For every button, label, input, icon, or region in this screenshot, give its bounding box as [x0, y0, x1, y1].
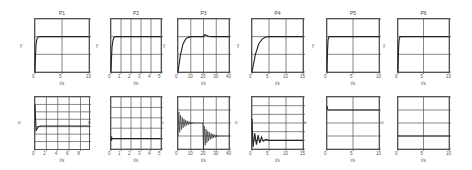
x-tick-label: 2: [43, 152, 46, 157]
y-axis-label: u: [304, 120, 307, 125]
plot-svg: [111, 19, 163, 74]
chart-title: P6: [397, 10, 450, 16]
x-tick-label: 6: [66, 152, 69, 157]
x-tick-label: 0: [249, 75, 252, 80]
x-axis-label: t/s: [251, 158, 304, 163]
x-axis-label: t/s: [34, 158, 90, 163]
x-tick-label: 10: [446, 75, 451, 80]
x-axis-label: t/s: [34, 81, 90, 86]
plot-area: [34, 18, 90, 73]
x-tick-label: 30: [213, 152, 218, 157]
y-axis-label: y: [312, 43, 314, 48]
plot-svg: [252, 97, 305, 151]
x-tick-label: 5: [158, 152, 161, 157]
plot-area: [177, 96, 230, 150]
plot-area: [110, 18, 162, 73]
x-tick-label: 0: [175, 75, 178, 80]
x-axis-label: t/s: [326, 81, 380, 86]
x-tick-label: 1: [118, 75, 121, 80]
y-axis-label: u: [18, 120, 21, 125]
x-tick-label: 0: [108, 152, 111, 157]
x-tick-label: 40: [226, 75, 231, 80]
plot-area: [34, 96, 90, 150]
x-tick-label: 10: [188, 152, 193, 157]
x-axis-label: t/s: [326, 158, 380, 163]
x-tick-label: 0: [175, 152, 178, 157]
chart-title: P1: [34, 10, 90, 16]
x-tick-label: 0: [108, 75, 111, 80]
y-axis-label: y: [163, 43, 165, 48]
x-tick-label: 15: [300, 152, 305, 157]
series-line: [111, 136, 161, 141]
plot-svg: [327, 97, 381, 151]
plot-svg: [111, 97, 163, 151]
x-tick-label: 20: [201, 75, 206, 80]
x-tick-label: 10: [188, 75, 193, 80]
plot-svg: [252, 19, 305, 74]
x-axis-label: t/s: [110, 158, 162, 163]
x-tick-label: 8: [77, 152, 80, 157]
plot-svg: [398, 97, 451, 151]
plot-svg: [398, 19, 451, 74]
x-tick-label: 10: [446, 152, 451, 157]
x-tick-label: 0: [32, 75, 35, 80]
x-axis-label: t/s: [397, 158, 450, 163]
x-tick-label: 10: [376, 75, 381, 80]
x-tick-label: 0: [249, 152, 252, 157]
x-tick-label: 20: [201, 152, 206, 157]
plot-svg: [178, 19, 231, 74]
plot-area: [326, 18, 380, 73]
x-axis-label: t/s: [397, 81, 450, 86]
x-tick-label: 15: [300, 75, 305, 80]
x-axis-label: t/s: [177, 81, 230, 86]
x-tick-label: 4: [55, 152, 58, 157]
chart-title: P2: [110, 10, 162, 16]
plot-svg: [35, 19, 91, 74]
x-tick-label: 0: [324, 75, 327, 80]
x-tick-label: 30: [213, 75, 218, 80]
x-tick-label: 5: [158, 75, 161, 80]
x-tick-label: 4: [148, 75, 151, 80]
x-tick-label: 3: [138, 75, 141, 80]
plot-area: [177, 18, 230, 73]
plot-area: [397, 18, 450, 73]
x-tick-label: 0: [395, 75, 398, 80]
y-axis-label: u: [88, 120, 91, 125]
x-axis-label: t/s: [110, 81, 162, 86]
x-tick-label: 5: [421, 75, 424, 80]
y-axis-label: u: [161, 120, 164, 125]
y-axis-label: u: [235, 120, 238, 125]
x-tick-label: 5: [266, 152, 269, 157]
plot-svg: [35, 97, 91, 151]
chart-title: P3: [177, 10, 230, 16]
y-axis-label: u: [381, 120, 384, 125]
plot-area: [251, 18, 304, 73]
chart-title: P4: [251, 10, 304, 16]
plot-area: [110, 96, 162, 150]
x-tick-label: 10: [283, 152, 288, 157]
x-tick-label: 5: [266, 75, 269, 80]
x-tick-label: 1: [118, 152, 121, 157]
y-axis-label: y: [383, 43, 385, 48]
x-tick-label: 10: [283, 75, 288, 80]
x-tick-label: 5: [350, 75, 353, 80]
x-tick-label: 4: [148, 152, 151, 157]
y-axis-label: y: [237, 43, 239, 48]
x-tick-label: 3: [138, 152, 141, 157]
x-tick-label: 0: [32, 152, 35, 157]
x-tick-label: 5: [350, 152, 353, 157]
plot-svg: [327, 19, 381, 74]
x-tick-label: 5: [59, 75, 62, 80]
x-tick-label: 0: [395, 152, 398, 157]
x-tick-label: 10: [376, 152, 381, 157]
x-axis-label: t/s: [251, 81, 304, 86]
plot-area: [397, 96, 450, 150]
x-axis-label: t/s: [177, 158, 230, 163]
x-tick-label: 2: [128, 75, 131, 80]
y-axis-label: y: [96, 43, 98, 48]
plot-area: [326, 96, 380, 150]
x-tick-label: 10: [86, 75, 91, 80]
chart-title: P5: [326, 10, 380, 16]
plot-svg: [178, 97, 231, 151]
y-axis-label: y: [20, 43, 22, 48]
